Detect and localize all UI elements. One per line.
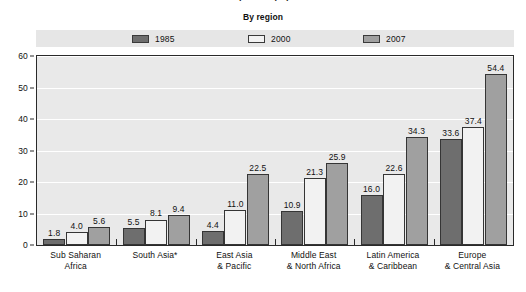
bar-1985-group-1 xyxy=(43,239,65,245)
x-axis-label-line: Europe xyxy=(445,250,500,261)
x-axis-label-group-3: East Asia& Pacific xyxy=(216,250,252,272)
y-tick-mark-10 xyxy=(30,213,34,214)
bar-2000-group-4 xyxy=(304,178,326,245)
bar-value-label-2007-group-5: 34.3 xyxy=(400,126,434,136)
bar-1985-group-5 xyxy=(361,195,383,245)
x-axis-label-line: East Asia xyxy=(216,250,252,261)
group-separator-3 xyxy=(275,239,276,245)
bar-value-label-2007-group-2: 9.4 xyxy=(162,204,196,214)
y-tick-label-10: 10 xyxy=(18,209,28,219)
y-tick-label-40: 40 xyxy=(18,114,28,124)
y-tick-mark-60 xyxy=(30,56,34,57)
x-axis-label-group-4: Middle East& North Africa xyxy=(287,250,341,272)
y-tick-mark-30 xyxy=(30,150,34,151)
y-tick-label-50: 50 xyxy=(18,83,28,93)
y-tick-label-0: 0 xyxy=(23,240,28,250)
bar-value-label-2007-group-3: 22.5 xyxy=(241,163,275,173)
plot-area: 1.84.05.65.58.19.44.411.022.510.921.325.… xyxy=(36,55,514,246)
bar-2007-group-5 xyxy=(406,137,428,245)
bar-1985-group-3 xyxy=(202,231,224,245)
bar-2000-group-2 xyxy=(145,220,167,246)
legend-item-2007: 2007 xyxy=(363,34,406,44)
legend-swatch-1985-icon xyxy=(132,35,149,43)
x-axis-label-line: Africa xyxy=(50,261,101,272)
chart-legend: 1985 2000 2007 xyxy=(36,30,514,47)
bar-value-label-2007-group-1: 5.6 xyxy=(82,216,116,226)
x-axis-label-group-5: Latin America& Caribbean xyxy=(367,250,420,272)
bar-2007-group-2 xyxy=(168,215,190,245)
x-axis-label-line: & North Africa xyxy=(287,261,341,272)
x-axis-label-line: & Central Asia xyxy=(445,261,500,272)
y-tick-label-60: 60 xyxy=(18,51,28,61)
y-tick-mark-0 xyxy=(30,245,34,246)
chart-subtitle: By region xyxy=(0,12,526,22)
x-axis-label-line: Latin America xyxy=(367,250,420,261)
y-tick-mark-40 xyxy=(30,119,34,120)
x-axis-label-line: South Asia* xyxy=(132,250,177,261)
group-separator-2 xyxy=(196,239,197,245)
bar-2007-group-6 xyxy=(485,74,507,245)
legend-swatch-2000-icon xyxy=(248,35,265,43)
y-axis: 0102030405060 xyxy=(0,55,34,246)
legend-label-1985: 1985 xyxy=(155,34,175,44)
legend-swatch-2007-icon xyxy=(363,35,380,43)
x-axis-labels: Sub SaharanAfricaSouth Asia*East Asia& P… xyxy=(36,250,514,290)
legend-item-2000: 2000 xyxy=(248,34,291,44)
bar-1985-group-6 xyxy=(440,139,462,245)
group-separator-1 xyxy=(116,239,117,245)
bar-2007-group-4 xyxy=(326,163,348,245)
group-separator-4 xyxy=(354,239,355,245)
bars-layer: 1.84.05.65.58.19.44.411.022.510.921.325.… xyxy=(37,56,513,245)
bar-1985-group-2 xyxy=(123,228,145,245)
x-axis-label-line: & Caribbean xyxy=(367,261,420,272)
clipped-chart-title: Access per 100 population xyxy=(0,0,526,3)
bar-value-label-2007-group-4: 25.9 xyxy=(320,152,354,162)
y-tick-label-20: 20 xyxy=(18,177,28,187)
legend-label-2007: 2007 xyxy=(386,34,406,44)
legend-label-2000: 2000 xyxy=(271,34,291,44)
bar-2007-group-1 xyxy=(88,227,110,245)
bar-2000-group-3 xyxy=(224,210,246,245)
bar-2007-group-3 xyxy=(247,174,269,245)
x-axis-label-line: & Pacific xyxy=(216,261,252,272)
x-axis-label-group-2: South Asia* xyxy=(132,250,177,261)
group-separator-5 xyxy=(434,239,435,245)
x-axis-label-line: Sub Saharan xyxy=(50,250,101,261)
y-tick-label-30: 30 xyxy=(18,146,28,156)
bar-2000-group-6 xyxy=(462,127,484,245)
bar-1985-group-4 xyxy=(281,211,303,245)
legend-item-1985: 1985 xyxy=(132,34,175,44)
y-tick-mark-20 xyxy=(30,182,34,183)
x-axis-label-group-1: Sub SaharanAfrica xyxy=(50,250,101,272)
bar-2000-group-1 xyxy=(66,232,88,245)
bar-value-label-2007-group-6: 54.4 xyxy=(479,63,513,73)
bar-2000-group-5 xyxy=(383,174,405,245)
x-axis-label-group-6: Europe& Central Asia xyxy=(445,250,500,272)
x-axis-label-line: Middle East xyxy=(287,250,341,261)
y-tick-mark-50 xyxy=(30,87,34,88)
